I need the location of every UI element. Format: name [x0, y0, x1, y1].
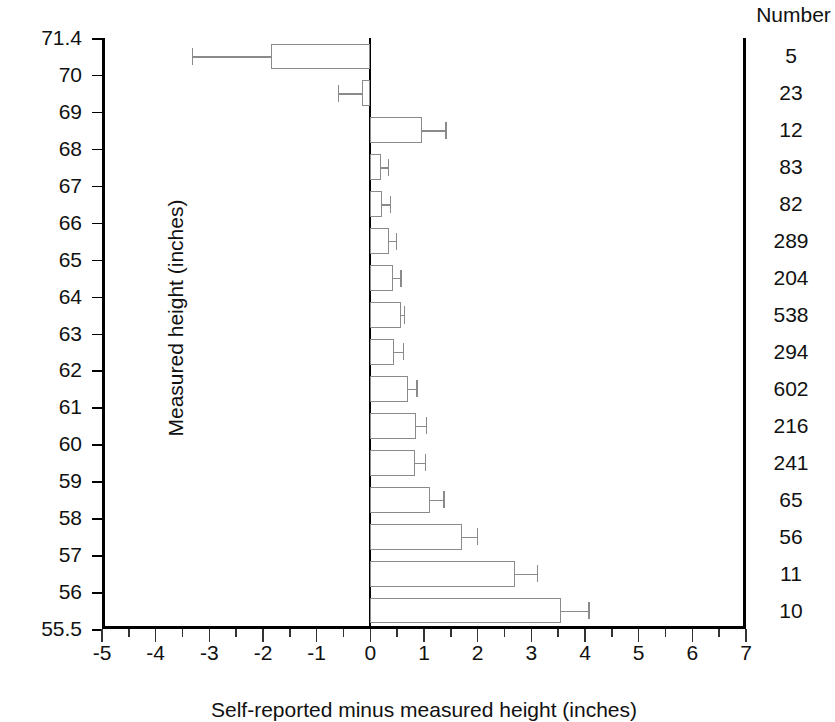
y-tick-label: 60	[0, 433, 82, 454]
error-bar-cap	[416, 380, 417, 397]
x-tick-label: -3	[189, 642, 229, 663]
number-column-value: 10	[752, 600, 830, 621]
y-tick-mark	[92, 297, 102, 299]
bar	[370, 154, 380, 180]
error-bar-line	[462, 537, 477, 538]
y-tick-mark	[92, 407, 102, 409]
x-tick-label: 2	[458, 642, 498, 663]
bar	[370, 561, 515, 587]
y-tick-mark	[92, 186, 102, 188]
error-bar-cap	[588, 602, 589, 619]
x-tick-label: -5	[82, 642, 122, 663]
y-tick-mark	[92, 592, 102, 594]
error-bar-cap	[477, 528, 478, 545]
number-column-value: 602	[752, 378, 830, 399]
number-column-value: 65	[752, 489, 830, 510]
y-tick-mark	[92, 518, 102, 520]
x-tick-label: 7	[726, 642, 766, 663]
y-tick-mark	[92, 75, 102, 77]
bar	[370, 413, 416, 439]
error-bar-line	[408, 389, 416, 390]
right-axis-line	[743, 38, 746, 629]
number-column-value: 241	[752, 452, 830, 473]
y-tick-mark	[92, 38, 102, 40]
x-minor-tick-mark	[557, 629, 559, 637]
error-bar-cap	[537, 565, 538, 582]
y-tick-label: 58	[0, 507, 82, 528]
error-bar-line	[394, 352, 402, 353]
bar	[370, 487, 430, 513]
bar	[370, 450, 415, 476]
y-tick-label: 67	[0, 175, 82, 196]
error-bar-line	[415, 463, 425, 464]
x-minor-tick-mark	[611, 629, 613, 637]
bar	[370, 228, 388, 254]
error-bar-cap	[445, 122, 446, 139]
bar	[370, 265, 393, 291]
bar	[362, 80, 371, 106]
bar	[370, 191, 381, 217]
y-axis-line	[102, 38, 105, 629]
x-tick-label: 0	[350, 642, 390, 663]
error-bar-cap	[403, 343, 404, 360]
x-minor-tick-mark	[289, 629, 291, 637]
x-minor-tick-mark	[718, 629, 720, 637]
error-bar-line	[430, 500, 443, 501]
bar	[370, 524, 461, 550]
x-tick-label: 1	[404, 642, 444, 663]
y-axis-title: Measured height (inches)	[164, 168, 188, 468]
x-minor-tick-mark	[235, 629, 237, 637]
error-bar-line	[338, 93, 362, 94]
error-bar-cap	[396, 233, 397, 250]
x-tick-label: -1	[297, 642, 337, 663]
number-column-value: 294	[752, 341, 830, 362]
bar	[271, 44, 370, 70]
error-bar-line	[389, 241, 397, 242]
x-tick-label: -4	[136, 642, 176, 663]
y-tick-label: 62	[0, 359, 82, 380]
y-tick-label: 68	[0, 138, 82, 159]
number-column-value: 538	[752, 304, 830, 325]
error-bar-line	[192, 56, 271, 57]
plot-area: 71.470696867666564636261605958575655.5 -…	[102, 38, 746, 629]
x-minor-tick-mark	[182, 629, 184, 637]
error-bar-cap	[443, 491, 444, 508]
y-tick-mark	[92, 370, 102, 372]
number-column-value: 23	[752, 82, 830, 103]
number-column-value: 289	[752, 230, 830, 251]
number-column-value: 83	[752, 156, 830, 177]
y-tick-label: 61	[0, 396, 82, 417]
error-bar-line	[561, 611, 588, 612]
number-column-value: 204	[752, 267, 830, 288]
y-tick-mark	[92, 444, 102, 446]
y-tick-mark	[92, 149, 102, 151]
x-minor-tick-mark	[396, 629, 398, 637]
y-tick-mark	[92, 260, 102, 262]
number-column-header: Number	[752, 3, 835, 27]
number-column-value: 12	[752, 119, 830, 140]
error-bar-line	[393, 278, 400, 279]
number-column-value: 56	[752, 526, 830, 547]
error-bar-cap	[388, 159, 389, 176]
x-tick-label: -2	[243, 642, 283, 663]
bar	[370, 117, 422, 143]
error-bar-line	[422, 130, 445, 131]
x-tick-label: 6	[672, 642, 712, 663]
error-bar-cap	[400, 270, 401, 287]
error-bar-line	[382, 204, 391, 205]
bar	[370, 339, 394, 365]
error-bar-cap	[426, 417, 427, 434]
y-tick-label: 69	[0, 101, 82, 122]
y-tick-label: 57	[0, 544, 82, 565]
y-tick-label: 70	[0, 64, 82, 85]
error-bar-line	[381, 167, 389, 168]
error-bar-cap	[404, 306, 405, 323]
number-column-value: 82	[752, 193, 830, 214]
error-bar-cap	[390, 196, 391, 213]
number-column-value: 5	[752, 45, 830, 66]
x-tick-label: 5	[619, 642, 659, 663]
error-bar-cap	[425, 454, 426, 471]
x-axis-title: Self-reported minus measured height (inc…	[102, 698, 746, 722]
error-bar-line	[515, 574, 536, 575]
